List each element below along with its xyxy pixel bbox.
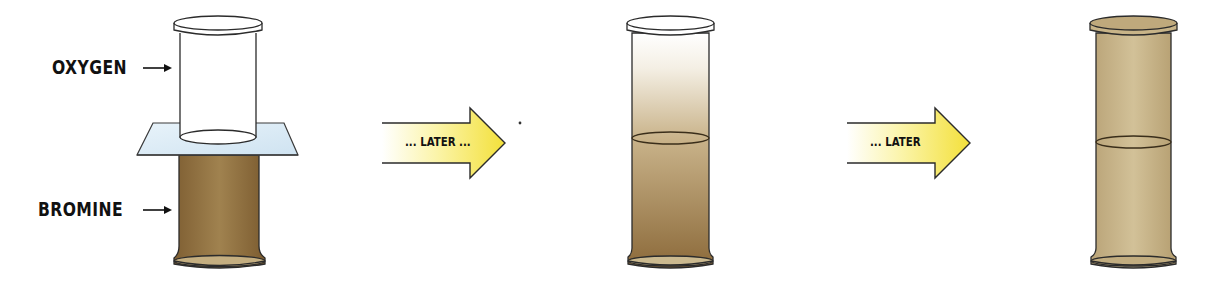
diffusion-diagram — [0, 0, 1209, 286]
bromine-pointer-arrow — [143, 206, 172, 214]
bromine-label: BROMINE — [38, 198, 123, 220]
stage-3-jar — [1090, 16, 1177, 268]
oxygen-jar — [174, 16, 262, 144]
stage-2-jar — [627, 16, 714, 268]
oxygen-pointer-arrow — [143, 64, 172, 72]
oxygen-label: OXYGEN — [52, 56, 127, 78]
arrow-2-text: ... LATER — [870, 135, 921, 149]
stage-1-jars — [137, 16, 298, 268]
bromine-jar — [174, 155, 265, 268]
arrow-1-text: ... LATER ... — [405, 135, 471, 149]
